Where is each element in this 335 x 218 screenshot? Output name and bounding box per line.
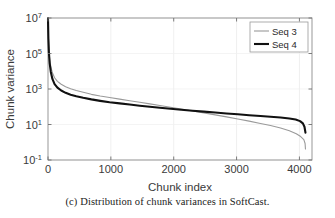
figure-caption: (c) Distribution of chunk variances in S… (0, 196, 335, 207)
x-tick-label: 1000 (99, 163, 123, 175)
y-tick-label: 103 (26, 82, 42, 95)
y-axis-title: Chunk variance (4, 49, 16, 129)
x-tick-label: 2000 (161, 163, 185, 175)
legend-label-1: Seq 4 (272, 39, 297, 50)
y-tick-label: 101 (26, 118, 42, 131)
y-tick-label: 105 (26, 47, 42, 60)
y-tick-label: 107 (26, 11, 42, 24)
x-tick-label: 0 (45, 163, 51, 175)
x-tick-label: 4000 (287, 163, 311, 175)
x-tick-label: 3000 (224, 163, 248, 175)
chart-canvas: 0100020003000400010-1101103105107Chunk i… (0, 0, 335, 218)
y-tick-label: 10-1 (23, 153, 42, 166)
figure-panel: 0100020003000400010-1101103105107Chunk i… (0, 0, 335, 218)
legend-label-0: Seq 3 (272, 26, 297, 37)
x-axis-title: Chunk index (148, 181, 212, 193)
